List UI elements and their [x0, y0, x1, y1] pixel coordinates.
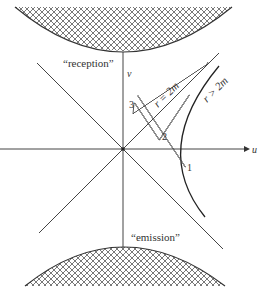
top-singularity-region	[15, 7, 232, 51]
emission-label: “emission”	[131, 231, 180, 243]
reception-label: “reception”	[63, 57, 114, 69]
point-2-label: 2	[162, 131, 167, 142]
diagonal-lower-left	[39, 149, 123, 233]
v-axis-label: v	[127, 68, 132, 79]
point-1-label: 1	[187, 162, 192, 173]
hyperbola-label: r > 2m	[200, 74, 230, 104]
origin-point	[121, 147, 125, 151]
point-3-label: 3	[129, 99, 134, 110]
diagonal-upper-left	[37, 63, 123, 149]
u-axis-label: u	[252, 144, 257, 155]
horizon-label: r = 2m	[151, 79, 181, 109]
u-axis-arrow-icon	[244, 146, 250, 152]
kruskal-diagram: u v “reception” “emission” r = 2m r > 2m…	[0, 0, 261, 301]
